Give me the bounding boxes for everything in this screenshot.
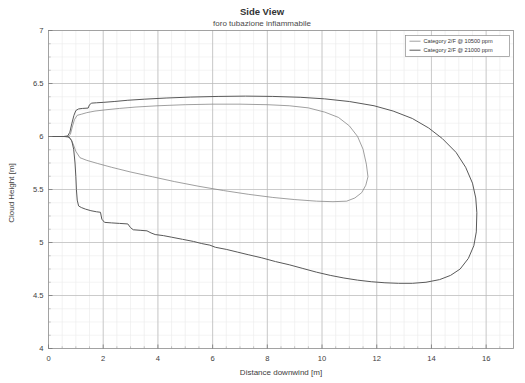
y-axis-label: Cloud Height [m] — [7, 163, 16, 223]
x-tick-label: 4 — [156, 354, 160, 363]
legend-label: Category 2/F @ 10500 ppm — [424, 38, 493, 44]
chart-container: Side View foro tubazione infiammabile 02… — [0, 0, 525, 383]
x-tick-label: 14 — [427, 354, 435, 363]
x-axis-label: Distance downwind [m] — [240, 368, 322, 377]
chart-title: Side View — [240, 6, 285, 17]
y-tick-label: 5 — [39, 238, 43, 247]
x-tick-label: 16 — [482, 354, 490, 363]
x-tick-label: 0 — [46, 354, 50, 363]
y-tick-label: 7 — [39, 26, 43, 35]
chart-background — [0, 0, 525, 383]
x-tick-label: 8 — [265, 354, 269, 363]
y-tick-label: 6.5 — [33, 79, 44, 88]
chart-subtitle: foro tubazione infiammabile — [213, 19, 311, 28]
chart-legend[interactable]: Category 2/F @ 10500 ppmCategory 2/F @ 2… — [406, 36, 510, 57]
x-tick-label: 12 — [373, 354, 381, 363]
x-tick-label: 10 — [318, 354, 326, 363]
side-view-chart: Side View foro tubazione infiammabile 02… — [0, 0, 525, 383]
x-tick-label: 6 — [211, 354, 215, 363]
y-tick-label: 6 — [39, 132, 43, 141]
x-tick-label: 2 — [101, 354, 105, 363]
legend-label: Category 2/F @ 21000 ppm — [424, 47, 493, 53]
y-tick-label: 4.5 — [33, 291, 44, 300]
y-tick-label: 5.5 — [33, 185, 44, 194]
y-tick-label: 4 — [39, 344, 43, 353]
